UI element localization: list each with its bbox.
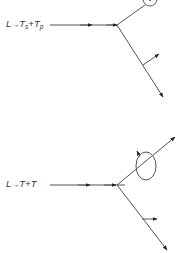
phonon-decay-diagram	[0, 0, 190, 253]
upper-branch-up-line	[117, 5, 145, 25]
upper-diagram	[50, 0, 163, 97]
upper-label-term2-sub: p	[40, 23, 44, 30]
upper-process-label: L→Ts+Tp	[6, 19, 43, 31]
upper-branch-down-line	[117, 25, 163, 97]
lower-process-label: L→T+T	[6, 179, 36, 189]
upper-polarization-arrow	[143, 54, 159, 65]
upper-polarization-dot-icon	[149, 0, 151, 1]
lower-branch-up-line	[117, 137, 175, 185]
lower-polarization-ellipse-icon	[136, 152, 156, 180]
lower-diagram	[50, 137, 175, 250]
lower-label-term2: T	[31, 178, 37, 189]
lower-branch-down-line	[117, 185, 167, 250]
